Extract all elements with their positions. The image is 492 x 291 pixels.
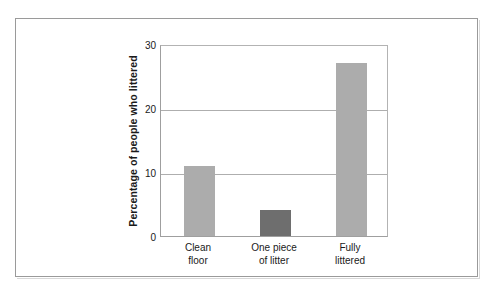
y-tick-label-20: 20 [130, 104, 156, 115]
y-tick-label-30: 30 [130, 40, 156, 51]
y-tick-label-10: 10 [130, 168, 156, 179]
x-category-label-3: Fullylittered [305, 242, 395, 267]
y-tick-label-0: 0 [130, 232, 156, 243]
plot-area [160, 45, 388, 237]
x-category-label-line: littered [305, 255, 395, 268]
bar-3 [336, 63, 367, 236]
bar-2 [260, 210, 291, 236]
y-axis-tick-labels: 0102030 [128, 0, 156, 291]
figure-container: Percentage of people who littered 010203… [0, 0, 492, 291]
bar-1 [184, 166, 215, 236]
x-category-label-line: Fully [305, 242, 395, 255]
